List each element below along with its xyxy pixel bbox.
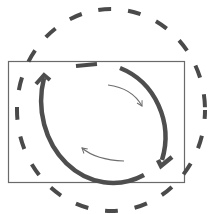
dash-segment	[76, 64, 97, 66]
thin-arrow-upper	[108, 85, 142, 106]
thick-arrow-upper-right-head	[158, 157, 172, 166]
thin-arrow-lower	[82, 148, 124, 161]
thick-arrow-lower-left	[41, 78, 144, 183]
cycle-diagram	[0, 0, 208, 214]
thick-arrow-upper-right	[120, 68, 165, 160]
